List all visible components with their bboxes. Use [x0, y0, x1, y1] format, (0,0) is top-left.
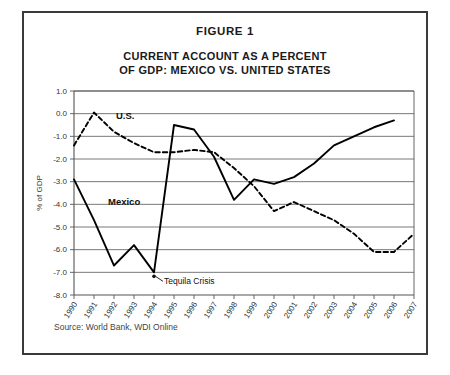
y-axis-tick-label: 0.0 [56, 109, 68, 118]
annotation-tequila-crisis: Tequila Crisis [164, 276, 215, 286]
y-axis-tick-label: -5.0 [53, 223, 67, 232]
series-label-us: U.S. [116, 110, 134, 121]
y-axis-tick-label: -2.0 [53, 155, 67, 164]
x-axis-tick-label: 2001 [282, 300, 299, 320]
y-axis-tick-label: -1.0 [53, 132, 67, 141]
x-axis-tick-label: 1993 [122, 300, 139, 320]
x-axis-tick-label: 2005 [362, 300, 379, 320]
series-label-mexico: Mexico [108, 196, 140, 207]
x-axis-tick-label: 2002 [302, 300, 319, 320]
y-axis-tick-label: -8.0 [53, 291, 67, 300]
y-axis-tick-label: -3.0 [53, 177, 67, 186]
y-axis-tick-label: -7.0 [53, 268, 67, 277]
y-axis-tick-label: -4.0 [53, 200, 67, 209]
x-axis-tick-label: 1990 [62, 300, 79, 320]
x-axis-tick-label: 1995 [162, 300, 179, 320]
x-axis-tick-label: 2004 [342, 300, 359, 320]
series-line-us [74, 113, 414, 252]
x-axis-tick-label: 1997 [202, 300, 219, 320]
y-axis-tick-label: 1.0 [56, 87, 68, 96]
x-axis-tick-label: 2003 [322, 300, 339, 320]
y-axis-title: % of GDP [35, 175, 44, 211]
x-axis-tick-label: 1992 [102, 300, 119, 320]
x-axis-tick-label: 2006 [382, 300, 399, 320]
x-axis-tick-label: 1998 [222, 300, 239, 320]
x-axis-tick-label: 1994 [142, 300, 159, 320]
x-axis-tick-label: 2007 [402, 300, 419, 320]
x-axis-tick-label: 2000 [262, 300, 279, 320]
x-axis-tick-label: 1999 [242, 300, 259, 320]
source-note: Source: World Bank, WDI Online [54, 322, 178, 332]
figure-frame: FIGURE 1 CURRENT ACCOUNT AS A PERCENT OF… [22, 11, 428, 355]
line-chart-plot: 1.00.0-1.0-2.0-3.0-4.0-5.0-6.0-7.0-8.019… [24, 13, 430, 357]
x-axis-tick-label: 1991 [82, 300, 99, 320]
y-axis-tick-label: -6.0 [53, 245, 67, 254]
x-axis-tick-label: 1996 [182, 300, 199, 320]
